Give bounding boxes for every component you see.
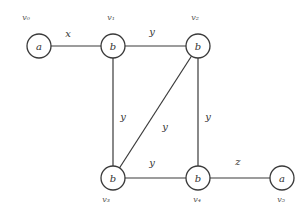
vertex-name: v₀ [22,13,31,22]
edge-label-v0-v1: x [65,28,71,39]
node-label: b [110,173,116,184]
vertex-name: v₅ [277,195,286,204]
vertex-name: v₄ [193,195,201,204]
node-label: a [36,41,42,52]
edge-label-v4-v5: z [234,156,241,167]
edge-label-v1-v2: y [148,26,155,37]
node-v2: b v₂ [186,13,210,58]
node-label: b [195,41,201,52]
node-label: a [279,173,285,184]
node-v0: a v₀ [22,13,51,58]
edge-label-v2-v3: y [161,121,168,132]
node-label: b [195,173,201,184]
node-v1: b v₁ [101,13,125,58]
edges [39,46,282,178]
node-v3: b v₃ [101,166,125,204]
edge-label-v1-v3: y [119,111,126,122]
vertex-name: v₂ [191,13,199,22]
edge-label-v3-v4: y [148,157,155,168]
vertex-name: v₃ [102,195,110,204]
node-v4: b v₄ [186,166,210,204]
node-label: b [110,41,116,52]
node-v5: a v₅ [270,166,294,204]
graph-diagram: x y y y y y z a v₀ b v₁ b v₂ b v₃ b v₄ a… [0,0,306,220]
vertex-name: v₁ [107,13,115,22]
edge-labels: x y y y y y z [65,26,241,168]
edge-label-v2-v4: y [204,111,211,122]
